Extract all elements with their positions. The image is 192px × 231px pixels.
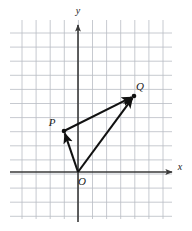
x-axis-label: x	[177, 161, 183, 172]
diagram-canvas: xyOPQ	[0, 0, 192, 231]
point-label-p: P	[48, 116, 56, 128]
grid-lines	[10, 20, 172, 219]
point-label-o: O	[78, 175, 86, 187]
vector-oq	[78, 98, 133, 172]
point-label-q: Q	[136, 80, 144, 92]
vector-op	[65, 133, 78, 172]
point-dot-p	[62, 129, 67, 134]
y-axis-label: y	[75, 5, 81, 16]
vector-arrows	[64, 97, 133, 172]
axis-lines	[10, 25, 172, 222]
vector-diagram-figure: xyOPQ	[0, 0, 192, 231]
point-dot-q	[132, 94, 137, 99]
